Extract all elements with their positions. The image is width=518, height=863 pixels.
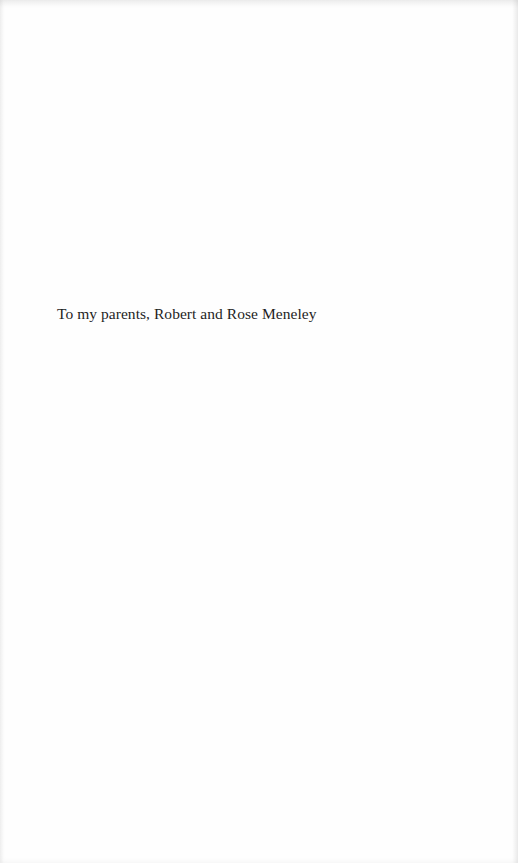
page-edge-right: [512, 0, 518, 863]
dedication-text: To my parents, Robert and Rose Meneley: [57, 304, 317, 324]
page-edge-top: [0, 0, 518, 8]
page-edge-left: [0, 0, 4, 863]
book-page: To my parents, Robert and Rose Meneley: [0, 0, 518, 863]
